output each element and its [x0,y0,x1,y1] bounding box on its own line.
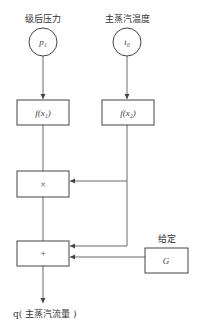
flow-diagram: 级后压力 p₁ 主蒸汽温度 t₀ f(x₁) f(x₂) × + 给定 G q(… [0,0,202,332]
setpoint-symbol: G [163,256,170,266]
multiplier-label: × [40,179,46,190]
input-label-pressure: 级后压力 [25,13,61,24]
function-label-f1: f(x₁) [35,108,51,118]
input-symbol-pressure: p₁ [38,37,47,47]
output-label: q( 主蒸汽流量 ) [13,308,77,319]
setpoint-title: 给定 [158,233,176,244]
input-symbol-temperature: t₀ [124,37,130,47]
function-label-f2: f(x₂) [120,108,136,118]
input-label-temperature: 主蒸汽温度 [105,13,150,24]
adder-label: + [40,248,46,259]
